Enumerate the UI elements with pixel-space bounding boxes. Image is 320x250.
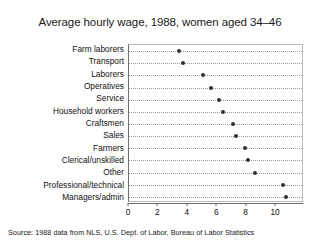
- grid-line: [129, 173, 302, 174]
- grid-line: [129, 63, 302, 64]
- data-point: [231, 122, 235, 126]
- data-point: [234, 134, 238, 138]
- category-label: Transport: [0, 57, 128, 66]
- data-point: [243, 146, 247, 150]
- category-label: Sales: [0, 131, 128, 140]
- x-tick-label: 2: [155, 207, 160, 217]
- grid-line: [129, 100, 302, 101]
- x-axis: [128, 203, 303, 204]
- grid-line: [129, 160, 302, 161]
- x-tick-label: 10: [270, 207, 279, 217]
- data-point: [246, 158, 250, 162]
- category-label: Operatives: [0, 82, 128, 91]
- source-note: Source: 1988 data from NLS, U.S. Dept. o…: [8, 228, 254, 237]
- x-tick: [216, 203, 217, 206]
- plot-area: [128, 44, 303, 202]
- x-tick: [157, 203, 158, 206]
- plot-wrapper: Farm laborersTransportLaborersOperatives…: [0, 44, 320, 204]
- category-label: Professional/technical: [0, 181, 128, 190]
- grid-line: [129, 124, 302, 125]
- grid-line: [129, 51, 302, 52]
- grid-line: [129, 197, 302, 198]
- category-label: Service: [0, 94, 128, 103]
- chart-figure: Average hourly wage, 1988, women aged 34…: [0, 0, 320, 250]
- grid-line: [129, 148, 302, 149]
- chart-title: Average hourly wage, 1988, women aged 34…: [0, 16, 320, 28]
- x-tick: [128, 203, 129, 206]
- grid-line: [129, 185, 302, 186]
- x-tick-label: 8: [243, 207, 248, 217]
- x-tick: [186, 203, 187, 206]
- category-label: Clerical/unskilled: [0, 156, 128, 165]
- data-point: [201, 73, 205, 77]
- grid-line: [129, 112, 302, 113]
- category-label: Craftsmen: [0, 119, 128, 128]
- data-point: [284, 195, 288, 199]
- x-tick-label: 6: [214, 207, 219, 217]
- category-label: Laborers: [0, 70, 128, 79]
- x-tick: [275, 203, 276, 206]
- data-point: [281, 183, 285, 187]
- category-axis-labels: Farm laborersTransportLaborersOperatives…: [0, 44, 128, 202]
- data-point: [253, 171, 257, 175]
- data-point: [221, 110, 225, 114]
- data-point: [177, 49, 181, 53]
- grid-line: [129, 136, 302, 137]
- category-label: Household workers: [0, 107, 128, 116]
- data-point: [217, 98, 221, 102]
- x-tick: [245, 203, 246, 206]
- category-label: Managers/admin: [0, 193, 128, 202]
- category-label: Farmers: [0, 144, 128, 153]
- category-label: Other: [0, 168, 128, 177]
- x-tick-label: 0: [126, 207, 131, 217]
- data-point: [209, 86, 213, 90]
- category-label: Farm laborers: [0, 45, 128, 54]
- x-tick-label: 4: [185, 207, 190, 217]
- grid-line: [129, 88, 302, 89]
- grid-line: [129, 75, 302, 76]
- data-point: [181, 61, 185, 65]
